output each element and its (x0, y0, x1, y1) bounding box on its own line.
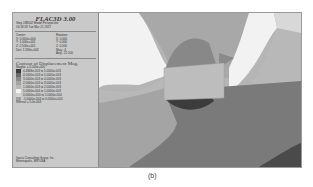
figure-caption: (b) (148, 172, 157, 179)
company-location: Minneapolis, MN USA (16, 160, 55, 164)
dist-value: Dist: 1.580e+002 (16, 49, 56, 53)
flac3d-window: FLAC3D 3.00 Step 188002 Model Perspectiv… (12, 12, 302, 168)
legend: 4.4868e-003 to 5.0000e-003 4.0000e-003 t… (13, 69, 98, 101)
contour-plot-view[interactable] (99, 13, 301, 167)
time-line: 16:18:18 Tue Mar 21 2017 (13, 26, 98, 30)
footer: Itasca Consulting Group, Inc. Minneapoli… (16, 157, 55, 164)
interval: Interval = 5.0e-004 (13, 101, 98, 105)
divider (15, 31, 96, 32)
info-panel: FLAC3D 3.00 Step 188002 Model Perspectiv… (13, 13, 99, 167)
divider (15, 58, 96, 59)
view-params: Center: X: 0.000e+000 Y: 1.000e+001 Z: 2… (13, 34, 98, 56)
ang-value: Ang.: 22.500 (56, 52, 73, 56)
